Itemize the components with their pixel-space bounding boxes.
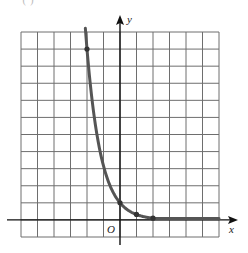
plot-area: x y O: [0, 0, 248, 253]
x-axis-label: x: [228, 223, 234, 235]
origin-label: O: [107, 223, 115, 235]
panel-label: ( ): [22, 0, 34, 7]
data-point: [134, 212, 139, 217]
decay-curve: [85, 28, 219, 218]
data-point: [150, 216, 155, 221]
y-axis-label: y: [126, 13, 132, 25]
exponential-graph-figure: ( ) x y O: [0, 0, 248, 253]
data-point: [84, 46, 89, 51]
data-point: [117, 200, 122, 205]
